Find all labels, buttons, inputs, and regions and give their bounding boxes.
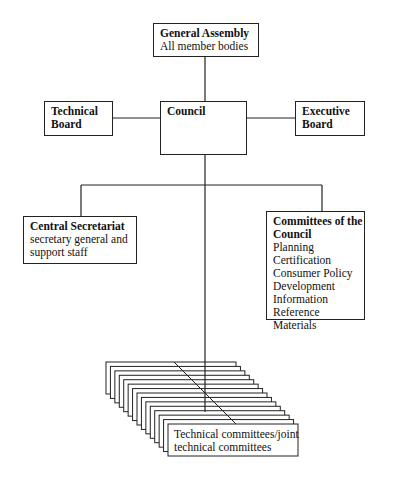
general-assembly-box: General Assembly All member bodies: [153, 23, 259, 57]
central-secretariat-box: Central Secretariat secretary general an…: [23, 216, 137, 264]
technical-committees-line: technical committees: [174, 441, 299, 454]
technical-committees-line: Technical committees/joint: [174, 428, 299, 441]
central-secretariat-line: secretary general and: [30, 233, 136, 246]
technical-committees-label: Technical committees/joint technical com…: [174, 428, 299, 454]
committee-item: Information: [273, 293, 364, 306]
executive-board-title-1: Executive: [302, 105, 364, 118]
committee-item: Certification: [273, 254, 364, 267]
committees-title-1: Committees of the: [273, 215, 364, 228]
executive-board-title-2: Board: [302, 118, 364, 131]
technical-board-box: Technical Board: [44, 101, 113, 136]
council-title: Council: [167, 105, 246, 118]
technical-board-title-1: Technical: [51, 105, 112, 118]
central-secretariat-line: support staff: [30, 246, 136, 259]
technical-board-title-2: Board: [51, 118, 112, 131]
general-assembly-title: General Assembly: [160, 27, 258, 40]
central-secretariat-title: Central Secretariat: [30, 220, 136, 233]
executive-board-box: Executive Board: [295, 101, 365, 136]
general-assembly-subtitle: All member bodies: [160, 40, 258, 53]
committee-item: Development: [273, 280, 364, 293]
committee-item: Planning: [273, 241, 364, 254]
committees-title-2: Council: [273, 228, 364, 241]
committees-of-council-box: Committees of the Council Planning Certi…: [266, 211, 365, 320]
council-box: Council: [160, 101, 247, 155]
committee-item: Reference Materials: [273, 306, 364, 332]
committee-item: Consumer Policy: [273, 267, 364, 280]
